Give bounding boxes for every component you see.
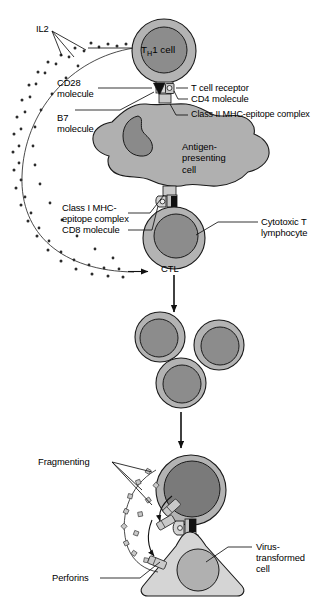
label-cd4-molecule: CD4 molecule [191,93,249,104]
ctl-cell-nucleus [154,214,198,258]
label-class1-mhc-epitope-complex: Class I MHC- epitope complex [62,202,129,224]
leader-il2-b [52,31,74,57]
ctl-cell-group [143,207,205,269]
perforin-rod-3 [147,555,167,569]
tcr-dark-block-icon [171,196,177,207]
label-class2-mhc-epitope-complex: Class II MHC-epitope complex [191,109,310,120]
class1-mhc-epitope-icon [163,186,176,196]
class2-mhc-epitope-icon [159,94,171,103]
label-fragmenting: Fragmenting [38,456,90,467]
th1-name-suffix: 1 cell [152,44,175,55]
cd4-molecule-icon [167,86,172,91]
fragmenting-granules-group [121,468,159,563]
label-il2: IL2 [36,23,49,34]
figure-canvas: IL2 CD28 molecule B7 molecule T cell rec… [0,0,330,599]
label-cd8-molecule: CD8 molecule [62,224,120,235]
perforin-rod-2 [156,515,176,531]
label-b7-molecule: B7 molecule [57,112,94,134]
clone-cell-2 [194,320,244,370]
clone-cell-3 [156,358,206,408]
label-cytotoxic-t-lymphocyte: Cytotoxic T lymphocyte [261,216,307,238]
effector-tcr-dark-icon [189,519,196,532]
label-t-cell-receptor: T cell receptor [191,82,249,93]
leader-il2-a [52,31,86,50]
immunology-diagram-svg [0,0,330,599]
label-cd28-molecule: CD28 molecule [57,77,94,99]
target-cell-nucleus [177,549,219,591]
caption-th1-cell: TH1 cell [141,44,175,58]
label-virus-transformed-cell: Virus- transformed cell [256,541,305,575]
leader-frag-b [112,462,142,490]
label-perforins: Perforins [52,572,89,583]
caption-antigen-presenting-cell: Antigen- presenting cell [182,141,226,175]
leader-ctl [196,222,258,235]
perforin-release-arrow-2 [148,520,154,556]
clone-3-nucleus [163,365,201,403]
leader-cd4 [174,91,188,99]
cd8-binding-site-icon [160,199,165,204]
clone-2-nucleus [201,327,239,365]
effector-cd8-site-icon [178,526,183,531]
clone-cell-1 [135,312,185,362]
leader-il2-c [52,31,62,56]
caption-ctl-abbrev: CTL [161,263,179,274]
clone-1-nucleus [140,319,178,357]
apc-ctl-synapse-group [156,186,177,207]
leader-frag-a [112,462,152,472]
th1-apc-synapse-group [154,82,175,103]
